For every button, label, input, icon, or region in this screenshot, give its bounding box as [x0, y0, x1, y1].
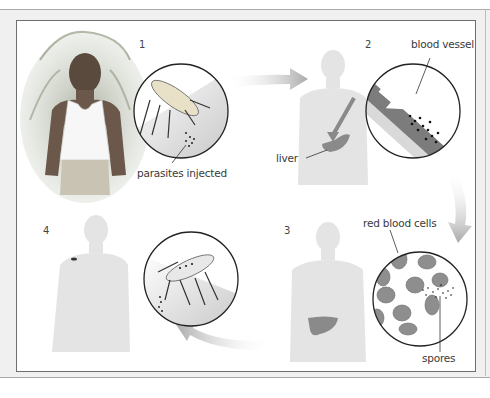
person-silhouette: [52, 215, 130, 352]
step-number-3: 3: [284, 225, 290, 236]
label-spores: spores: [422, 352, 455, 364]
label-parasites-injected: parasites injected: [137, 167, 227, 179]
mosquito-icon: [71, 257, 77, 260]
arrow-down-icon: [447, 170, 472, 243]
life-cycle-illustration: [0, 0, 490, 398]
step-number-1: 1: [139, 39, 145, 50]
red-blood-cells-zoom: [370, 249, 467, 346]
arrow-right-icon: [225, 68, 308, 90]
person-bitten-illustration: [20, 32, 150, 203]
step-number-4: 4: [43, 225, 49, 236]
label-red-blood-cells: red blood cells: [363, 217, 437, 229]
person-silhouette-liver: [290, 222, 366, 362]
person-silhouette-liver: [298, 50, 368, 185]
label-blood-vessel: blood vessel: [411, 38, 474, 50]
step-number-2: 2: [365, 39, 371, 50]
label-liver: liver: [276, 152, 298, 164]
